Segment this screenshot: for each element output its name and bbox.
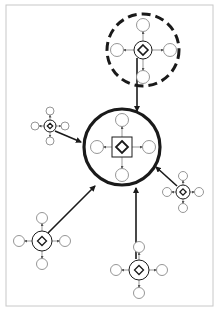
satellite-circle: [134, 242, 145, 253]
satellite-circle: [179, 172, 188, 181]
nodes-group: [14, 14, 204, 299]
satellite-circle: [111, 265, 122, 276]
satellite-circle: [91, 141, 104, 154]
satellite-circle: [37, 259, 48, 270]
satellite-circle: [60, 236, 71, 247]
satellite-circle: [31, 122, 39, 130]
diagram-svg: [0, 0, 220, 313]
peripheral-node-bottom-left: [14, 213, 71, 270]
central-node: [84, 109, 160, 185]
satellite-circle: [157, 265, 168, 276]
satellite-circle: [46, 107, 54, 115]
peripheral-node-top-left: [31, 107, 69, 145]
dashed-node: [107, 14, 179, 86]
satellite-circle: [14, 236, 25, 247]
network-diagram: [0, 0, 220, 313]
edge-arrow-top-left-to-main: [55, 131, 81, 142]
satellite-circle: [137, 19, 150, 32]
satellite-circle: [116, 114, 129, 127]
satellite-circle: [116, 169, 129, 182]
satellite-circle: [195, 188, 204, 197]
satellite-circle: [111, 44, 124, 57]
satellite-circle: [134, 288, 145, 299]
satellite-circle: [137, 71, 150, 84]
peripheral-node-bottom: [111, 242, 168, 299]
satellite-circle: [143, 141, 156, 154]
satellite-circle: [164, 44, 177, 57]
edge-arrow-right-to-main: [156, 167, 177, 186]
satellite-circle: [37, 213, 48, 224]
edge-arrow-bottom-left-to-main: [48, 186, 95, 233]
satellite-circle: [46, 137, 54, 145]
satellite-circle: [61, 122, 69, 130]
satellite-circle: [163, 188, 172, 197]
satellite-circle: [179, 204, 188, 213]
